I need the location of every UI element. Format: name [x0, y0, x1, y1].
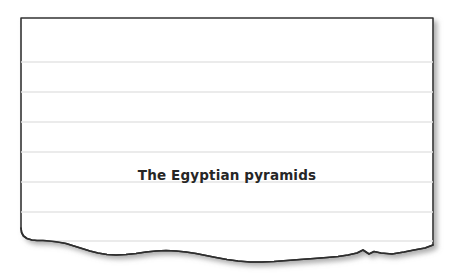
- notepaper-illustration: The Egyptian pyramids: [0, 0, 455, 278]
- paper-graphic: [0, 0, 455, 278]
- paper-sheet: [21, 18, 433, 262]
